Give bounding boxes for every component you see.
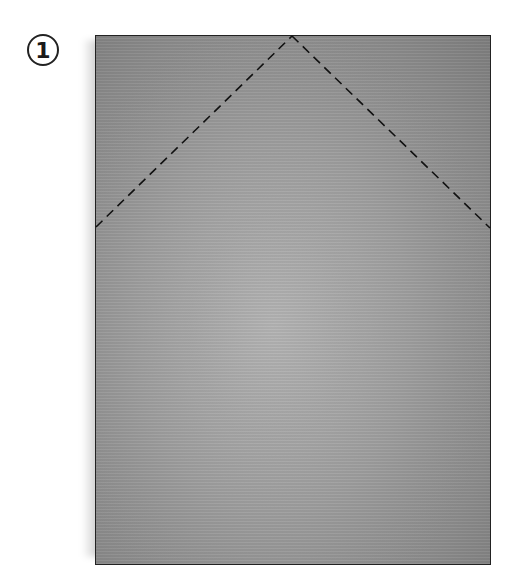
fold-line-right [292, 36, 490, 228]
fold-line-left [96, 36, 292, 227]
